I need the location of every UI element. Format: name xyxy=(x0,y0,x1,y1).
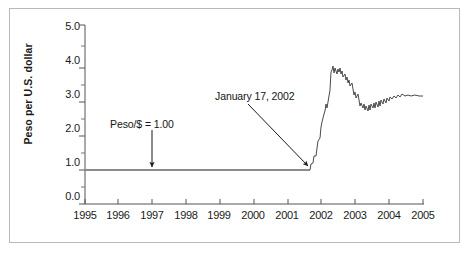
chart-figure: Peso per U.S. dollar 5.0 4.0 3.0 2.0 1.0… xyxy=(0,0,473,256)
x-ticks xyxy=(85,199,423,204)
y-minor-ticks xyxy=(81,46,85,187)
series-line-postcrisis xyxy=(310,66,423,170)
plot-area: Peso per U.S. dollar 5.0 4.0 3.0 2.0 1.0… xyxy=(0,0,473,256)
y-major-ticks xyxy=(79,25,85,204)
chart-vector-layer xyxy=(0,0,473,256)
annotation-arrow-devaluation xyxy=(248,104,308,166)
